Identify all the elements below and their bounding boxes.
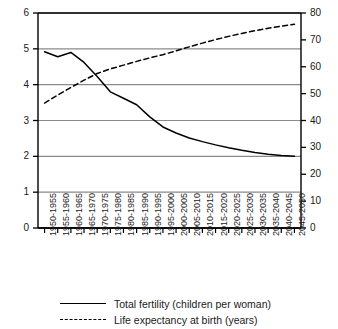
legend-item-total-fertility: Total fertility (children per woman) bbox=[0, 296, 338, 312]
series-line-life-expectancy bbox=[45, 24, 295, 103]
ytick-label-left: 1 bbox=[3, 187, 29, 197]
ytick-label-right: 70 bbox=[310, 35, 338, 45]
xtick-label: 2035-2040 bbox=[272, 193, 281, 236]
xtick-label: 1985-1990 bbox=[141, 193, 150, 236]
chart-figure: 0123456010203040506070801950-19551955-19… bbox=[0, 0, 338, 329]
ytick-label-left: 4 bbox=[3, 80, 29, 90]
chart-plot-area bbox=[0, 0, 338, 329]
legend-item-life-expectancy: Life expectancy at birth (years) bbox=[0, 312, 338, 328]
xtick-label: 2005-2010 bbox=[193, 193, 202, 236]
xtick-label: 1975-1980 bbox=[114, 193, 123, 236]
ytick-label-left: 6 bbox=[3, 8, 29, 18]
ytick-label-right: 20 bbox=[310, 169, 338, 179]
ytick-label-right: 0 bbox=[310, 223, 338, 233]
xtick-label: 1980-1985 bbox=[127, 193, 136, 236]
xtick-label: 2025-2030 bbox=[246, 193, 255, 236]
xtick-label: 1990-1995 bbox=[154, 193, 163, 236]
ytick-label-right: 80 bbox=[310, 8, 338, 18]
ytick-label-left: 5 bbox=[3, 44, 29, 54]
xtick-label: 1995-2000 bbox=[167, 193, 176, 236]
xtick-label: 2030-2035 bbox=[259, 193, 268, 236]
chart-legend: Total fertility (children per woman) Lif… bbox=[0, 296, 338, 328]
xtick-label: 2010-2015 bbox=[206, 193, 215, 236]
series-line-total-fertility bbox=[45, 52, 295, 157]
ytick-label-right: 30 bbox=[310, 142, 338, 152]
xtick-label: 1970-1975 bbox=[101, 193, 110, 236]
legend-label-total-fertility: Total fertility (children per woman) bbox=[114, 298, 271, 310]
legend-label-life-expectancy: Life expectancy at birth (years) bbox=[114, 314, 258, 326]
xtick-label: 1960-1965 bbox=[75, 193, 84, 236]
ytick-label-left: 0 bbox=[3, 223, 29, 233]
xtick-label: 2020-2025 bbox=[233, 193, 242, 236]
legend-line-solid-icon bbox=[60, 299, 106, 309]
legend-line-dashed-icon bbox=[60, 315, 106, 325]
xtick-label: 2015-2020 bbox=[220, 193, 229, 236]
xtick-label: 2000-2005 bbox=[180, 193, 189, 236]
ytick-label-right: 40 bbox=[310, 116, 338, 126]
xtick-label: 2040-2045 bbox=[285, 193, 294, 236]
ytick-label-right: 50 bbox=[310, 89, 338, 99]
ytick-label-right: 60 bbox=[310, 62, 338, 72]
xtick-label: 1955-1960 bbox=[62, 193, 71, 236]
xtick-label: 1965-1970 bbox=[88, 193, 97, 236]
ytick-label-right: 10 bbox=[310, 196, 338, 206]
xtick-label: 1950-1955 bbox=[49, 193, 58, 236]
ytick-label-left: 2 bbox=[3, 151, 29, 161]
ytick-label-left: 3 bbox=[3, 116, 29, 126]
xtick-label: 2045-2050 bbox=[298, 193, 307, 236]
